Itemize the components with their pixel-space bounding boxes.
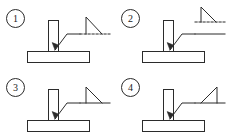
tee-joint-figure-3 bbox=[22, 70, 115, 139]
fillet-weld-triangle bbox=[201, 87, 217, 103]
base-plate bbox=[143, 52, 205, 63]
fillet-weld-triangle bbox=[201, 7, 216, 22]
diagram-canvas: 1 2 bbox=[0, 0, 230, 139]
option-panel-3: 3 bbox=[0, 70, 115, 139]
base-plate bbox=[143, 121, 205, 132]
option-panel-4: 4 bbox=[115, 70, 230, 139]
tee-joint-figure-1 bbox=[22, 1, 115, 70]
tee-joint-figure-2 bbox=[137, 1, 230, 70]
base-plate bbox=[28, 52, 90, 63]
arrowhead bbox=[52, 43, 58, 50]
arrowhead bbox=[167, 43, 173, 50]
fillet-weld-triangle bbox=[86, 87, 102, 103]
arrowhead bbox=[52, 112, 58, 119]
base-plate bbox=[28, 121, 90, 132]
arrowhead bbox=[167, 112, 173, 119]
option-panel-1: 1 bbox=[0, 1, 115, 70]
tee-joint-figure-4 bbox=[137, 70, 230, 139]
fillet-weld-triangle bbox=[86, 17, 102, 34]
option-panel-2: 2 bbox=[115, 1, 230, 70]
